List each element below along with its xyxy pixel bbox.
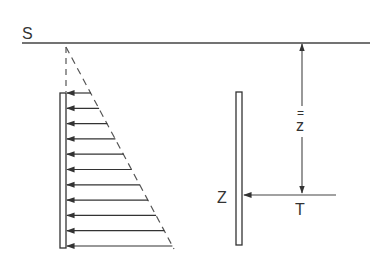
depth-label: z bbox=[296, 117, 304, 134]
right-wall bbox=[236, 92, 242, 245]
pressure-arrows bbox=[67, 93, 172, 246]
dashed-hypotenuse bbox=[66, 47, 174, 249]
left-wall bbox=[60, 93, 66, 248]
hydrostatic-pressure-diagram: S = z Z T bbox=[0, 0, 380, 262]
point-label: Z bbox=[217, 189, 227, 206]
force-label: T bbox=[295, 201, 305, 218]
surface-label: S bbox=[22, 25, 33, 42]
